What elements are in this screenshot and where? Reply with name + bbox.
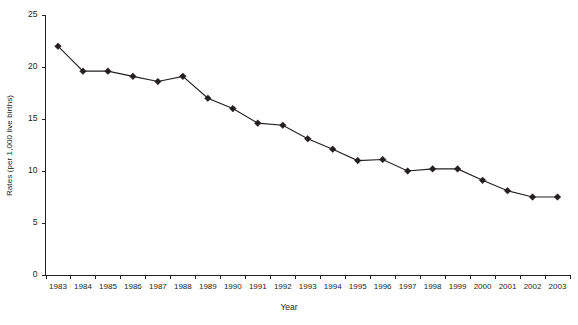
x-tick-label: 2001 <box>499 282 517 291</box>
data-point-marker <box>379 156 386 163</box>
x-tick-label: 1985 <box>99 282 117 291</box>
data-point-marker <box>479 177 486 184</box>
data-point-marker <box>279 122 286 129</box>
data-point-marker <box>329 146 336 153</box>
x-tick-label: 1989 <box>199 282 217 291</box>
x-tick-label: 1991 <box>249 282 267 291</box>
x-tick-label: 2003 <box>549 282 567 291</box>
data-point-marker <box>230 105 237 112</box>
data-point-marker <box>354 157 361 164</box>
data-point-marker <box>504 187 511 194</box>
data-point-marker <box>155 78 162 85</box>
x-tick-label: 1995 <box>349 282 367 291</box>
x-tick-label: 1999 <box>449 282 467 291</box>
data-point-marker <box>304 135 311 142</box>
data-point-marker <box>529 194 536 201</box>
x-tick-label: 1988 <box>174 282 192 291</box>
y-tick-label: 25 <box>28 9 38 19</box>
x-tick-label: 1990 <box>224 282 242 291</box>
x-axis-ticks: 1983198419851986198719881989199019911992… <box>47 275 571 291</box>
plot-area: 0510152025 19831984198519861987198819891… <box>0 0 578 325</box>
data-point-marker <box>429 166 436 173</box>
data-point-marker <box>554 194 561 201</box>
y-tick-label: 0 <box>33 269 38 279</box>
x-tick-label: 1987 <box>149 282 167 291</box>
x-tick-label: 1994 <box>324 282 342 291</box>
y-tick-label: 10 <box>28 165 38 175</box>
series-line <box>58 46 558 197</box>
x-axis-title: Year <box>0 302 578 312</box>
data-point-marker <box>454 166 461 173</box>
data-point-marker <box>254 120 261 127</box>
data-point-marker <box>105 68 112 75</box>
x-tick-label: 1983 <box>49 282 67 291</box>
x-tick-label: 1986 <box>124 282 142 291</box>
y-tick-label: 15 <box>28 113 38 123</box>
y-axis-ticks: 0510152025 <box>28 9 45 279</box>
data-point-marker <box>404 168 411 175</box>
x-tick-label: 1996 <box>374 282 392 291</box>
x-tick-label: 1993 <box>299 282 317 291</box>
data-point-marker <box>130 73 137 80</box>
x-tick-label: 1998 <box>424 282 442 291</box>
x-tick-label: 1997 <box>399 282 417 291</box>
y-tick-label: 5 <box>33 217 38 227</box>
x-tick-label: 1984 <box>74 282 92 291</box>
series-markers <box>55 43 561 200</box>
y-tick-label: 20 <box>28 61 38 71</box>
line-chart: Rates (per 1,000 live births) 0510152025… <box>0 0 578 325</box>
x-tick-label: 2002 <box>524 282 542 291</box>
x-tick-label: 2000 <box>474 282 492 291</box>
x-tick-label: 1992 <box>274 282 292 291</box>
